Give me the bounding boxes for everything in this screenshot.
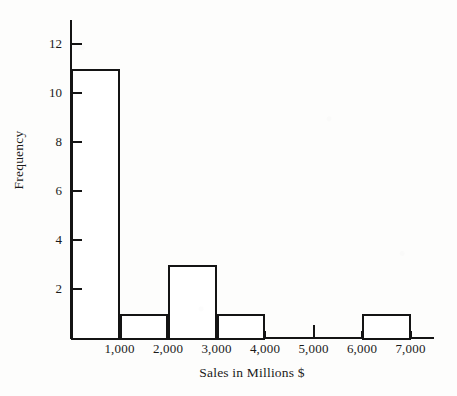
x-axis-tick xyxy=(119,331,121,339)
x-axis-title: Sales in Millions $ xyxy=(70,365,434,381)
histogram-bar xyxy=(168,265,217,341)
histogram-figure: 24681012 1,0002,0003,0004,0005,0006,0007… xyxy=(0,0,457,396)
y-axis-tick-label: 8 xyxy=(38,135,62,148)
x-axis-tick xyxy=(410,331,412,339)
y-axis-tick xyxy=(72,92,82,94)
x-axis-tick xyxy=(361,331,363,339)
y-axis-tick-label: 10 xyxy=(38,86,62,99)
y-axis-tick-label: 2 xyxy=(38,282,62,295)
plot-area: 24681012 1,0002,0003,0004,0005,0006,0007… xyxy=(0,0,457,396)
histogram-bar xyxy=(120,314,169,341)
y-axis-tick xyxy=(72,43,82,45)
y-axis-tick-label: 6 xyxy=(38,184,62,197)
histogram-bar xyxy=(362,314,411,341)
histogram-bar xyxy=(217,314,266,341)
x-axis-tick xyxy=(216,331,218,339)
y-axis-tick xyxy=(72,239,82,241)
x-axis-tick xyxy=(167,331,169,339)
histogram-bar xyxy=(71,69,120,341)
y-axis-tick xyxy=(72,288,82,290)
y-axis-tick-label: 12 xyxy=(38,37,62,50)
x-axis-stub-tick-5000 xyxy=(313,325,315,338)
y-axis-title: Frequency xyxy=(11,115,27,205)
y-axis-tick xyxy=(72,141,82,143)
x-axis-tick-label: 7,000 xyxy=(381,341,441,356)
y-axis-tick-label: 4 xyxy=(38,233,62,246)
x-axis-tick xyxy=(264,331,266,339)
y-axis-tick xyxy=(72,190,82,192)
